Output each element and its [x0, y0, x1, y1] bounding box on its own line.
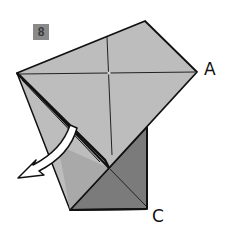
corner-label-c: C	[152, 208, 164, 225]
bottom-edge	[70, 209, 147, 210]
corner-label-a: A	[204, 61, 216, 78]
crease-center-dot	[108, 72, 111, 75]
fold-diagram-graphic	[0, 0, 232, 234]
